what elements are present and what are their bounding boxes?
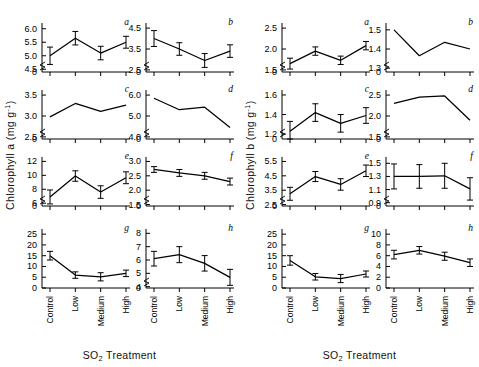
- chart-block-chlorophyll-b: Chlorophyll b (mg g-1) SO2 Treatment 1.5…: [240, 0, 479, 367]
- y-tick-label: 3.5: [24, 90, 37, 100]
- chart-panel-chlorophyll-b-b: 1.31.41.50b: [350, 16, 479, 82]
- y-tick-label: 25: [27, 229, 37, 239]
- y-tick-label-zero: 0: [376, 201, 381, 211]
- x-tick-label: Medium: [440, 296, 450, 326]
- error-bar: [202, 54, 208, 68]
- error-bar: [312, 104, 318, 122]
- y-tick-label: 7: [136, 242, 141, 252]
- error-bar: [47, 190, 53, 204]
- panel-letter: d: [468, 84, 473, 94]
- data-series-line: [394, 176, 470, 189]
- x-tick-label: Low: [70, 295, 80, 311]
- chart-panel-chlorophyll-a-h: 456780ControlLowMediumHighh: [110, 222, 246, 322]
- y-tick-label: 3.0: [24, 111, 37, 121]
- y-tick-label: 4: [376, 261, 381, 271]
- error-bar: [287, 187, 293, 200]
- axis-break-icon: [384, 129, 389, 137]
- error-bar: [227, 269, 233, 285]
- x-tick-label: Medium: [96, 296, 106, 326]
- y-tick-label: 2.5: [128, 171, 141, 181]
- chart-panel-chlorophyll-a-f: 1.52.02.53.00f: [110, 150, 246, 216]
- y-tick-label-zero: 0: [32, 67, 37, 77]
- chart-block-chlorophyll-a: Chlorophyll a (mg g-1) SO2 Treatment 4.5…: [0, 0, 239, 367]
- y-tick-label-zero: 0: [376, 67, 381, 77]
- y-tick-label: 8: [376, 240, 381, 250]
- axis-break-icon: [384, 62, 389, 70]
- panel-letter: b: [468, 17, 473, 27]
- data-series-line: [394, 250, 470, 262]
- error-bar: [176, 43, 182, 56]
- error-bar: [47, 251, 53, 260]
- y-tick-label: 8: [32, 184, 37, 194]
- y-tick-label-zero: 0: [272, 201, 277, 211]
- x-axis-label-so: SO: [323, 349, 339, 361]
- y-tick-label: 5.0: [24, 51, 37, 61]
- chart-panel-chlorophyll-b-f: 0.91.11.31.50f: [350, 150, 479, 216]
- y-tick-label: 20: [27, 240, 37, 250]
- y-tick-label: 5.0: [128, 111, 141, 121]
- y-tick-label: 0: [32, 283, 37, 293]
- y-tick-label: 3.5: [128, 44, 141, 54]
- y-tick-label: 6.0: [128, 90, 141, 100]
- axis-break-icon: [144, 196, 149, 204]
- y-tick-label: 2.0: [128, 185, 141, 195]
- y-tick-label: 1.5: [368, 25, 381, 35]
- data-series-line: [154, 39, 230, 61]
- error-bar: [287, 256, 293, 265]
- y-tick-label: 2.5: [368, 90, 381, 100]
- y-tick-label: 1.1: [368, 185, 381, 195]
- y-tick-label: 5.5: [264, 156, 277, 166]
- data-series-line: [394, 30, 470, 56]
- error-bar: [202, 256, 208, 271]
- axis-break-icon: [144, 62, 149, 70]
- error-bar: [72, 31, 78, 45]
- y-tick-label: 1.6: [264, 90, 277, 100]
- x-tick-label: Control: [285, 296, 295, 324]
- y-tick-label: 3.0: [128, 156, 141, 166]
- y-tick-label: 2.0: [368, 111, 381, 121]
- y-tick-label: 2.5: [264, 23, 277, 33]
- y-tick-label: 12: [27, 156, 37, 166]
- x-tick-label: High: [225, 296, 235, 314]
- x-tick-label: Control: [389, 296, 399, 324]
- y-tick-label: 6: [136, 255, 141, 265]
- y-tick-label-zero: 0: [32, 134, 37, 144]
- error-bar: [312, 47, 318, 55]
- panel-letter: b: [228, 17, 233, 27]
- x-axis-label-so: SO: [83, 349, 99, 361]
- y-tick-label: 10: [27, 170, 37, 180]
- y-tick-label: 0: [376, 283, 381, 293]
- error-bar: [72, 171, 78, 181]
- panel-letter: h: [228, 223, 233, 233]
- y-tick-label: 15: [267, 251, 277, 261]
- y-tick-label-zero: 0: [136, 201, 141, 211]
- panel-letter: f: [470, 151, 474, 161]
- y-tick-label: 10: [371, 229, 381, 239]
- x-tick-label: High: [465, 296, 475, 314]
- data-series-line: [154, 255, 230, 278]
- panel-letter: h: [468, 223, 473, 233]
- axis-break-icon: [280, 62, 285, 70]
- y-tick-label: 1.5: [368, 158, 381, 168]
- y-tick-label: 20: [267, 240, 277, 250]
- axis-break-icon: [40, 129, 45, 137]
- x-tick-label: Low: [174, 295, 184, 311]
- data-series-line: [154, 169, 230, 181]
- y-tick-label-zero: 0: [272, 67, 277, 77]
- error-bar: [227, 45, 233, 58]
- x-tick-label: Low: [310, 295, 320, 311]
- error-bar: [98, 186, 104, 199]
- error-bar: [98, 46, 104, 60]
- y-tick-label: 15: [27, 251, 37, 261]
- y-tick-label: 8: [136, 228, 141, 238]
- x-tick-label: Medium: [200, 296, 210, 326]
- y-tick-label: 5: [136, 268, 141, 278]
- y-tick-label: 5: [32, 272, 37, 282]
- chart-panel-chlorophyll-b-h: 0246810ControlLowMediumHighh: [350, 222, 479, 322]
- y-tick-label: 2.0: [264, 44, 277, 54]
- y-tick-label: 1.4: [368, 44, 381, 54]
- y-tick-label-zero: 0: [136, 67, 141, 77]
- y-tick-label: 10: [27, 261, 37, 271]
- y-tick-label: 2: [376, 272, 381, 282]
- x-axis-label-left: SO2 Treatment: [0, 349, 239, 363]
